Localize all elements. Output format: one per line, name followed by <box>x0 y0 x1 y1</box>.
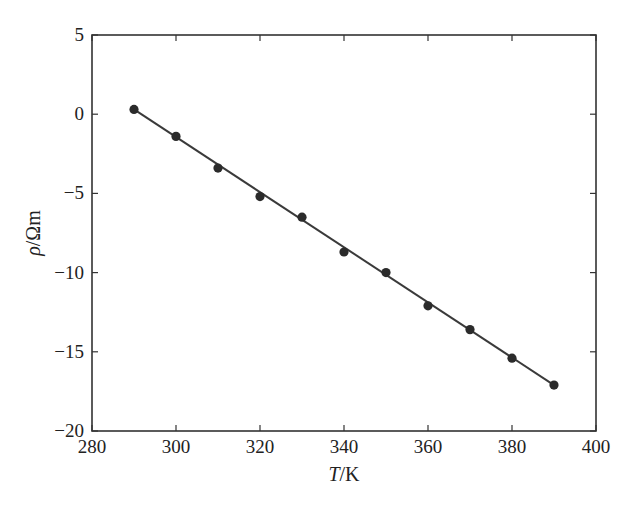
data-point <box>423 301 432 310</box>
data-point <box>465 325 474 334</box>
data-point <box>381 268 390 277</box>
data-point <box>507 354 516 363</box>
data-point <box>297 213 306 222</box>
plot-frame <box>92 35 596 431</box>
x-tick-label: 360 <box>414 436 443 457</box>
y-tick-label: 5 <box>75 24 85 45</box>
chart: 28030032034036038040050−5−10−15−20 T/K ρ… <box>0 0 644 507</box>
data-point <box>129 105 138 114</box>
x-tick-label: 320 <box>246 436 275 457</box>
y-tick-label: −15 <box>54 341 84 362</box>
data-point <box>255 192 264 201</box>
y-axis-label: ρ/Ωm <box>22 210 45 257</box>
x-tick-label: 400 <box>582 436 611 457</box>
x-axis-label: T/K <box>328 463 360 485</box>
y-tick-label: −20 <box>54 420 84 441</box>
data-point <box>339 247 348 256</box>
x-tick-label: 300 <box>162 436 191 457</box>
x-tick-label: 340 <box>330 436 359 457</box>
y-tick-label: −5 <box>64 182 84 203</box>
x-tick-label: 380 <box>498 436 527 457</box>
data-point <box>171 132 180 141</box>
y-tick-label: 0 <box>75 103 85 124</box>
y-tick-label: −10 <box>54 262 84 283</box>
fit-line <box>134 109 554 385</box>
data-point <box>549 380 558 389</box>
data-point <box>213 163 222 172</box>
